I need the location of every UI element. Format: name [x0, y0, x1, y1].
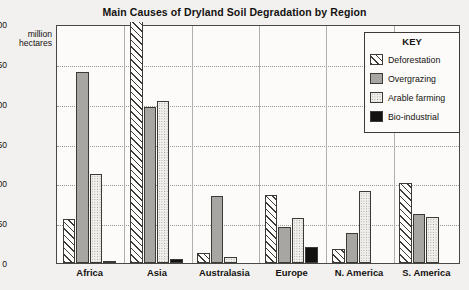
bar-s-america-deforestation [399, 183, 412, 263]
legend-item-deforestation: Deforestation [365, 50, 459, 69]
y-axis-tick-200: 200 [0, 100, 7, 110]
chart-title: Main Causes of Dryland Soil Degradation … [0, 6, 469, 18]
bar-africa-bio-industrial [103, 261, 116, 263]
legend-rows: DeforestationOvergrazingArable farmingBi… [365, 50, 459, 126]
bar-s-america-overgrazing [413, 214, 426, 263]
x-axis-label-africa: Africa [76, 267, 103, 278]
x-axis-label-europe: Europe [276, 267, 308, 278]
bar-asia-bio-industrial [170, 259, 183, 263]
x-axis-label-australasia: Australasia [199, 267, 250, 278]
legend: KEY DeforestationOvergrazingArable farmi… [364, 32, 460, 133]
bar-s-america-arable-farming [426, 217, 439, 263]
y-axis-tick-0: 0 [0, 259, 7, 269]
bar-europe-deforestation [265, 195, 278, 263]
bar-australasia-deforestation [197, 253, 210, 263]
bar-africa-deforestation [63, 219, 76, 263]
bar-europe-bio-industrial [305, 247, 318, 263]
bar-europe-arable-farming [292, 218, 305, 263]
legend-label-arable-farming: Arable farming [388, 93, 445, 103]
chart-container: Main Causes of Dryland Soil Degradation … [0, 0, 469, 290]
y-axis-unit-label: million hectares [0, 30, 52, 48]
bar-asia-arable-farming [157, 101, 170, 263]
bar-n-america-deforestation [332, 249, 345, 263]
bar-n-america-arable-farming [359, 191, 372, 263]
legend-item-bio-industrial: Bio-industrial [365, 107, 459, 126]
bar-asia-deforestation [130, 22, 143, 263]
x-axis-label-asia: Asia [147, 267, 167, 278]
x-axis-label-s-america: S. America [402, 267, 450, 278]
y-axis-unit-line-2: hectares [0, 39, 52, 48]
bar-europe-overgrazing [278, 227, 291, 263]
legend-swatch-deforestation [370, 54, 383, 65]
legend-swatch-arable-farming [370, 92, 383, 103]
y-axis-tick-100: 100 [0, 179, 7, 189]
x-axis-label-n-america: N. America [335, 267, 384, 278]
legend-label-overgrazing: Overgrazing [388, 74, 436, 84]
y-axis-tick-300: 300 [0, 20, 7, 30]
bar-asia-overgrazing [144, 107, 157, 263]
y-axis-tick-50: 50 [0, 219, 7, 229]
y-axis-tick-250: 250 [0, 60, 7, 70]
legend-label-bio-industrial: Bio-industrial [388, 112, 439, 122]
legend-item-overgrazing: Overgrazing [365, 69, 459, 88]
legend-title: KEY [365, 36, 459, 47]
legend-swatch-overgrazing [370, 73, 383, 84]
bar-africa-overgrazing [76, 72, 89, 263]
bar-australasia-overgrazing [211, 196, 224, 263]
legend-label-deforestation: Deforestation [388, 55, 440, 65]
legend-item-arable-farming: Arable farming [365, 88, 459, 107]
bar-n-america-overgrazing [346, 233, 359, 263]
bar-australasia-arable-farming [224, 257, 237, 263]
legend-swatch-bio-industrial [370, 111, 383, 122]
y-axis-tick-150: 150 [0, 140, 7, 150]
bar-africa-arable-farming [90, 174, 103, 263]
